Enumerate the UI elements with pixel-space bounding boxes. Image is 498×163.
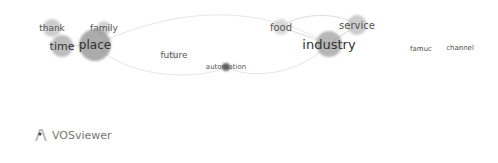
vosviewer-logo-icon — [34, 128, 48, 142]
node-label-place[interactable]: place — [79, 38, 111, 52]
node-label-future[interactable]: future — [160, 50, 187, 60]
vosviewer-logo: VOSviewer — [34, 128, 112, 142]
node-label-food[interactable]: food — [270, 22, 292, 33]
node-label-industry[interactable]: industry — [302, 37, 355, 52]
node-label-automation[interactable]: automation — [206, 63, 246, 71]
logo-text: VOSviewer — [52, 129, 112, 142]
node-label-channel[interactable]: channel — [446, 44, 474, 52]
node-label-service[interactable]: service — [339, 20, 375, 31]
node-label-time[interactable]: time — [50, 40, 75, 53]
node-label-famuc[interactable]: famuc — [410, 45, 432, 53]
node-label-thank[interactable]: thank — [39, 23, 65, 33]
